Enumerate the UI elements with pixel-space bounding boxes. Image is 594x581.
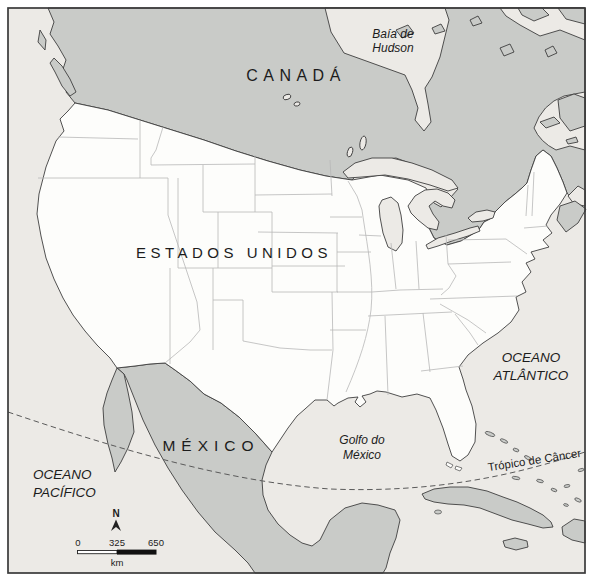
scale-unit-label: km [111,557,124,568]
pacific-label-line1: OCEANO [33,467,92,482]
hudson-bay-label-line1: Baía de [372,27,414,41]
isla-juventud [435,510,442,514]
scale-tick-0: 0 [75,537,80,548]
scale-tick-325: 325 [109,537,125,548]
scale-tick-650: 650 [148,537,164,548]
north-america-map: CANADÁ ESTADOS UNIDOS MÉXICO Baía de Hud… [0,0,594,581]
gulf-of-mexico-label-line2: México [343,448,381,462]
atlantic-label-line2: ATLÂNTICO [493,368,569,383]
map-page: CANADÁ ESTADOS UNIDOS MÉXICO Baía de Hud… [0,0,594,581]
hudson-bay-label-line2: Hudson [372,41,414,55]
scale-segment-white [78,551,118,554]
canada-label: CANADÁ [246,66,346,84]
atlantic-label-line1: OCEANO [502,350,561,365]
scale-segment-black [117,550,157,555]
north-label: N [112,508,119,519]
mexico-label: MÉXICO [162,437,259,454]
pacific-label-line2: PACÍFICO [33,485,96,500]
gulf-of-mexico-label-line1: Golfo do [339,433,385,447]
usa-label: ESTADOS UNIDOS [136,244,332,261]
